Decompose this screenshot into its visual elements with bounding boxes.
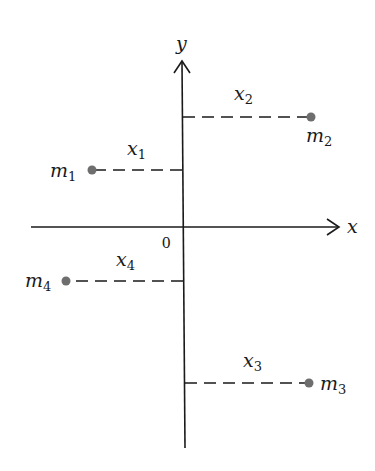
- distance-label-x1: x1: [127, 137, 146, 162]
- mass-label-m1: m1: [50, 159, 76, 184]
- axes: [31, 61, 339, 448]
- distance-label-x4: x4: [116, 248, 135, 273]
- mass-point-m1: [88, 166, 97, 175]
- distance-label-x3: x3: [243, 349, 262, 374]
- x-axis-label: x: [347, 215, 358, 237]
- origin-label: 0: [162, 233, 171, 252]
- distance-label-x2: x2: [234, 82, 253, 107]
- mass-label-m4: m4: [25, 269, 51, 294]
- mass-label-m3: m3: [320, 372, 346, 397]
- y-axis: [182, 62, 185, 448]
- mass-point-m2: [307, 113, 316, 122]
- y-axis-label: y: [175, 32, 187, 54]
- mass-label-m2: m2: [306, 124, 332, 149]
- mass-distribution-diagram: x y 0 m1 m2 m3 m4 x1 x2 x3 x4: [0, 0, 375, 471]
- mass-point-m4: [62, 277, 71, 286]
- mass-point-m3: [305, 379, 314, 388]
